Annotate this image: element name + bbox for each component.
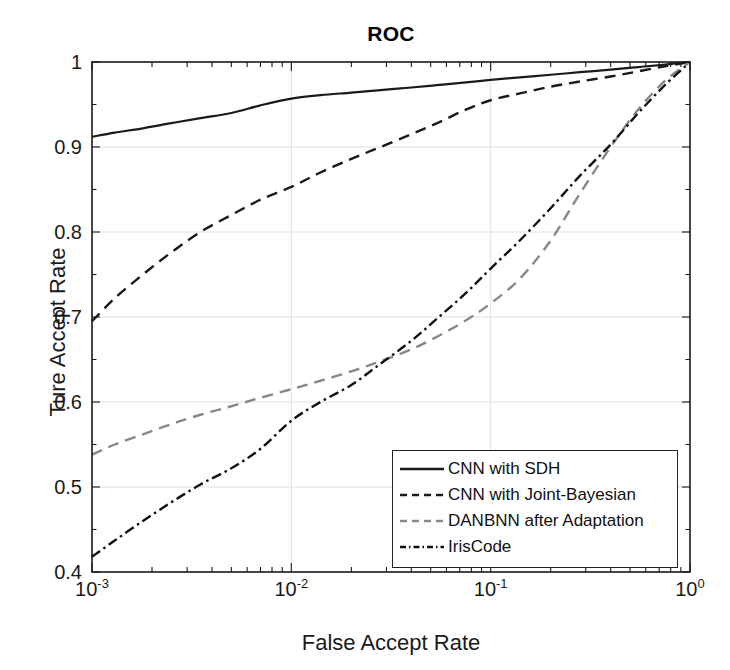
x-tick-label: 10-3: [52, 578, 132, 601]
x-tick-mantissa: 10: [75, 578, 97, 600]
roc-chart-figure: ROC 0.40.50.60.70.80.91 10-310-210-1100 …: [0, 0, 730, 670]
x-axis-tick-labels: 10-310-210-1100: [0, 0, 730, 670]
x-tick-mantissa: 10: [274, 578, 296, 600]
legend-line-sample: [399, 488, 445, 502]
x-tick-exponent: -2: [297, 576, 309, 591]
legend-item-label: IrisCode: [448, 537, 511, 557]
x-tick-exponent: 0: [698, 576, 705, 591]
x-tick-mantissa: 10: [675, 578, 697, 600]
legend-line-sample: [399, 462, 445, 476]
legend-line-sample: [399, 514, 445, 528]
x-tick-mantissa: 10: [474, 578, 496, 600]
x-tick-label: 10-1: [451, 578, 531, 601]
x-tick-label: 100: [650, 578, 730, 601]
x-axis-label: False Accept Rate: [92, 630, 690, 656]
x-tick-exponent: -1: [496, 576, 508, 591]
legend-item[interactable]: IrisCode: [399, 534, 671, 560]
legend-item[interactable]: CNN with Joint-Bayesian: [399, 482, 671, 508]
y-axis-label-wrapper: Ture Accept Rate: [45, 182, 75, 482]
chart-legend: CNN with SDHCNN with Joint-BayesianDANBN…: [392, 450, 678, 568]
y-axis-label: Ture Accept Rate: [45, 247, 70, 416]
legend-item-label: CNN with SDH: [448, 459, 560, 479]
x-tick-label: 10-2: [251, 578, 331, 601]
legend-item-label: CNN with Joint-Bayesian: [448, 485, 636, 505]
x-tick-exponent: -3: [97, 576, 109, 591]
legend-item[interactable]: DANBNN after Adaptation: [399, 508, 671, 534]
legend-item-label: DANBNN after Adaptation: [448, 511, 644, 531]
legend-item[interactable]: CNN with SDH: [399, 456, 671, 482]
legend-line-sample: [399, 540, 445, 554]
